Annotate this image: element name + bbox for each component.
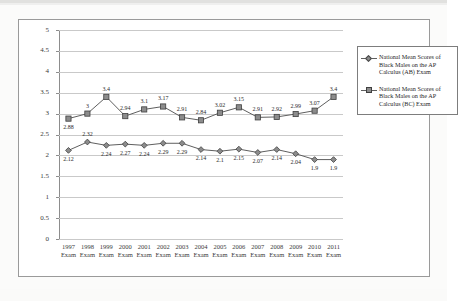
data-point-label: 2.14: [271, 155, 282, 161]
data-point-label: 2.14: [196, 155, 207, 161]
square-marker-icon: [236, 105, 241, 110]
diamond-marker-icon: [160, 140, 166, 146]
square-marker-icon: [161, 104, 166, 109]
data-point-label: 2.12: [63, 156, 74, 162]
plot-area: 00.511.522.533.544.55 2.122.322.242.272.…: [59, 30, 343, 239]
legend-item-bc: National Mean Scores of Black Males on t…: [361, 85, 453, 108]
data-point-label: 2.32: [82, 131, 93, 137]
diamond-marker-icon: [103, 142, 109, 148]
y-tick-label: 3.5: [27, 89, 49, 96]
scan-artifact-top-bar-secondary: [0, 3, 447, 5]
square-marker-icon: [274, 114, 279, 119]
square-marker-icon: [85, 111, 90, 116]
series-plot: [59, 30, 343, 239]
data-point-label: 2.88: [63, 124, 74, 130]
y-tick-mark: [56, 239, 59, 240]
data-point-label: 3.1: [140, 98, 148, 104]
data-point-label: 3.07: [309, 100, 320, 106]
y-tick-label: 5: [27, 27, 49, 34]
chart-legend: National Mean Scores of Black Males on t…: [357, 46, 458, 115]
diamond-marker-icon: [255, 150, 261, 156]
plot-inner: 00.511.522.533.544.55 2.122.322.242.272.…: [59, 30, 343, 239]
data-point-label: 3.4: [330, 86, 338, 92]
diamond-marker-icon: [274, 147, 280, 153]
chart-frame: 00.511.522.533.544.55 2.122.322.242.272.…: [18, 19, 430, 277]
square-marker-icon: [361, 86, 377, 95]
data-point-label: 3.15: [234, 96, 245, 102]
y-tick-label: 4.5: [27, 47, 49, 54]
diamond-marker-icon: [217, 148, 223, 154]
data-point-label: 2.92: [271, 106, 282, 112]
y-tick-label: 4: [27, 68, 49, 75]
y-tick-label: 2.5: [27, 131, 49, 138]
data-point-label: 2.15: [234, 155, 245, 161]
diamond-marker-icon: [198, 147, 204, 153]
square-marker-icon: [66, 116, 71, 121]
x-tick-label: 2011Exam: [321, 243, 347, 259]
data-point-label: 3.4: [103, 86, 111, 92]
legend-item-ab: National Mean Scores of Black Males on t…: [361, 53, 453, 76]
square-marker-icon: [293, 111, 298, 116]
square-marker-icon: [104, 94, 109, 99]
square-marker-icon: [217, 110, 222, 115]
square-marker-icon: [312, 108, 317, 113]
diamond-marker-icon: [293, 151, 299, 157]
square-marker-icon: [331, 94, 336, 99]
diamond-marker-icon: [331, 157, 337, 163]
data-point-label: 2.94: [120, 105, 131, 111]
diamond-marker-icon: [312, 157, 318, 163]
legend-label-bc: National Mean Scores of Black Males on t…: [377, 85, 453, 108]
diamond-marker-icon: [179, 140, 185, 146]
data-point-label: 3: [86, 103, 89, 109]
diamond-marker-icon: [141, 142, 147, 148]
y-tick-label: 1: [27, 194, 49, 201]
y-tick-label: 2: [27, 152, 49, 159]
data-point-label: 2.99: [290, 103, 301, 109]
gridline: [59, 239, 343, 240]
y-tick-label: 0: [27, 236, 49, 243]
data-point-label: 2.91: [253, 106, 264, 112]
diamond-marker-icon: [66, 147, 72, 153]
y-tick-label: 0.5: [27, 215, 49, 222]
data-point-label: 1.9: [311, 165, 319, 171]
data-point-label: 2.24: [101, 151, 112, 157]
data-point-label: 2.1: [216, 157, 224, 163]
data-point-label: 2.07: [253, 158, 264, 164]
data-point-label: 2.29: [177, 149, 188, 155]
square-marker-icon: [123, 114, 128, 119]
data-point-label: 2.29: [158, 149, 169, 155]
data-point-label: 2.27: [120, 150, 131, 156]
square-marker-icon: [198, 118, 203, 123]
data-point-label: 2.04: [290, 159, 301, 165]
y-tick-label: 3: [27, 110, 49, 117]
legend-label-ab: National Mean Scores of Black Males on t…: [377, 53, 453, 76]
scan-artifact-bottom: [0, 289, 447, 301]
data-point-label: 1.9: [330, 165, 338, 171]
data-point-label: 2.91: [177, 106, 188, 112]
data-point-label: 2.24: [139, 151, 150, 157]
y-tick-label: 1.5: [27, 173, 49, 180]
data-point-label: 2.84: [196, 109, 207, 115]
square-marker-icon: [179, 115, 184, 120]
diamond-marker-icon: [361, 54, 377, 63]
square-marker-icon: [142, 107, 147, 112]
data-point-label: 3.02: [215, 102, 226, 108]
diamond-marker-icon: [122, 141, 128, 147]
diamond-marker-icon: [236, 146, 242, 152]
square-marker-icon: [255, 115, 260, 120]
diamond-marker-icon: [85, 139, 91, 145]
legend-ab-line-1: National Mean Scores: [379, 53, 434, 60]
data-point-label: 3.17: [158, 95, 169, 101]
legend-bc-line-1: National Mean Scores: [379, 85, 434, 92]
